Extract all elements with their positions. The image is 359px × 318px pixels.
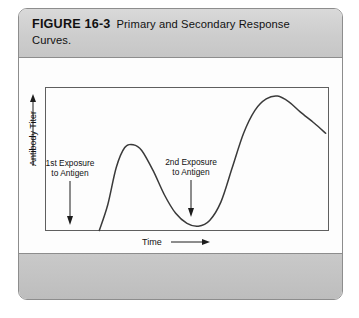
figure-footer-band	[19, 253, 342, 299]
x-axis-label: Time	[142, 237, 162, 247]
annotation-first-exposure: 1st Exposure to Antigen	[46, 158, 95, 225]
annotation-first-exposure-line1: 1st Exposure	[46, 158, 95, 168]
figure-plot-stage: Antibody Titer Time 1st Exposure to Anti…	[19, 58, 342, 255]
figure-number-label: FIGURE 16-3	[32, 17, 110, 31]
y-axis-label: Antibody Titer	[28, 111, 38, 166]
x-axis-arrow-icon	[171, 239, 210, 245]
annotation-second-exposure: 2nd Exposure to Antigen	[165, 157, 217, 217]
figure-caption: FIGURE 16-3Primary and Secondary Respons…	[32, 16, 332, 48]
annotation-second-exposure-line1: 2nd Exposure	[165, 157, 217, 167]
annotation-first-exposure-line2: to Antigen	[51, 168, 89, 178]
annotation-first-exposure-arrowhead-icon	[67, 216, 73, 225]
figure-caption-band: FIGURE 16-3Primary and Secondary Respons…	[19, 9, 342, 58]
figure-panel: FIGURE 16-3Primary and Secondary Respons…	[18, 8, 343, 300]
annotation-second-exposure-line2: to Antigen	[172, 167, 210, 177]
response-curve-chart: Antibody Titer Time 1st Exposure to Anti…	[19, 58, 343, 255]
annotation-second-exposure-arrowhead-icon	[188, 208, 194, 217]
